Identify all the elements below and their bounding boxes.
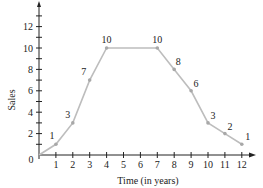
- data-point-marker: [189, 89, 193, 93]
- y-axis-title: Sales: [6, 89, 17, 110]
- data-point-marker: [54, 143, 58, 147]
- x-tick-label: 2: [70, 159, 75, 170]
- x-tick-label: 4: [104, 159, 109, 170]
- data-point-label: 3: [211, 110, 216, 121]
- data-point-label: 10: [102, 34, 112, 45]
- y-tick-label: 6: [28, 85, 33, 96]
- data-point-marker: [223, 132, 227, 136]
- y-tick-label: 8: [28, 64, 33, 75]
- x-tick-label: 7: [155, 159, 160, 170]
- data-point-label: 2: [227, 121, 232, 132]
- data-point-marker: [156, 46, 160, 50]
- sales-series: [39, 46, 244, 155]
- data-point-marker: [240, 143, 244, 147]
- y-tick-label: 4: [28, 107, 33, 118]
- x-tick-label: 11: [220, 159, 230, 170]
- x-tick-label: 1: [53, 159, 58, 170]
- data-point-label: 1: [49, 130, 54, 141]
- data-point-marker: [172, 68, 176, 72]
- y-tick-label: 10: [23, 43, 33, 54]
- sales-line: [39, 48, 242, 155]
- data-point-marker: [206, 121, 210, 125]
- data-point-marker: [71, 121, 75, 125]
- sales-line-chart: 12345678910111224681012 137101086321 Tim…: [0, 0, 263, 188]
- y-tick-label: 12: [23, 21, 33, 32]
- x-tick-label: 6: [138, 159, 143, 170]
- point-labels: 137101086321: [49, 34, 250, 142]
- data-point-label: 10: [152, 34, 162, 45]
- origin-label: 0: [29, 154, 34, 165]
- x-tick-label: 10: [203, 159, 213, 170]
- axes: 12345678910111224681012: [23, 1, 256, 170]
- y-tick-label: 2: [28, 128, 33, 139]
- data-point-label: 3: [65, 109, 70, 120]
- x-tick-label: 9: [189, 159, 194, 170]
- x-tick-label: 12: [237, 159, 247, 170]
- data-point-marker: [88, 78, 92, 82]
- data-point-label: 8: [176, 56, 181, 67]
- data-point-label: 1: [245, 131, 250, 142]
- data-point-label: 6: [194, 78, 199, 89]
- data-point-label: 7: [81, 66, 86, 77]
- x-axis-title: Time (in years): [117, 175, 178, 187]
- x-tick-label: 3: [87, 159, 92, 170]
- y-axis-arrow-icon: [37, 1, 41, 7]
- x-tick-label: 8: [172, 159, 177, 170]
- x-tick-label: 5: [121, 159, 126, 170]
- x-axis-arrow-icon: [249, 153, 256, 158]
- data-point-marker: [105, 46, 109, 50]
